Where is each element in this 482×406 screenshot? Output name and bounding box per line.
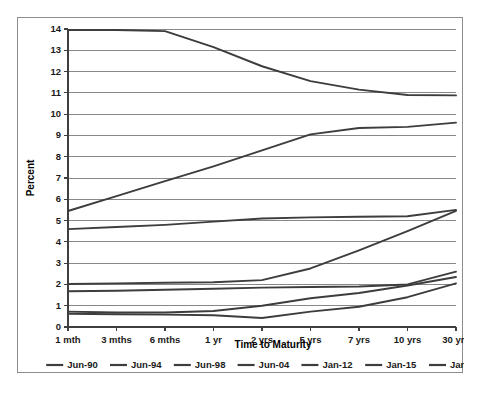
legend-label-jan-12[interactable]: Jan-12 bbox=[322, 359, 352, 370]
chart-legend[interactable]: Jun-90Jun-94Jun-98Jun-04Jan-12Jan-15Jan-… bbox=[46, 359, 464, 370]
y-axis-title: Percent bbox=[25, 159, 36, 196]
legend-label-jun-04[interactable]: Jun-04 bbox=[259, 359, 290, 370]
y-tick-label: 6 bbox=[56, 193, 61, 204]
series-lines[interactable] bbox=[68, 30, 456, 318]
x-tick-label: 30 yrs bbox=[442, 334, 464, 345]
y-tick-label: 9 bbox=[56, 129, 61, 140]
y-tick-label: 4 bbox=[56, 236, 62, 247]
line-chart[interactable]: 01234567891011121314 1 mth3 mths6 mths1 … bbox=[18, 18, 464, 374]
y-tick-label: 1 bbox=[56, 300, 62, 311]
y-tick-label: 0 bbox=[56, 321, 61, 332]
legend-label-jan-15[interactable]: Jan-15 bbox=[386, 359, 417, 370]
y-tick-label: 2 bbox=[56, 278, 61, 289]
series-line-jun-98[interactable] bbox=[68, 210, 456, 229]
y-tick-label: 5 bbox=[56, 215, 62, 226]
x-tick-label: 1 mth bbox=[55, 334, 81, 345]
legend-label-jan-19[interactable]: Jan-19 bbox=[450, 359, 464, 370]
y-tick-label: 10 bbox=[50, 108, 61, 119]
x-tick-label: 3 mths bbox=[101, 334, 132, 345]
chart-figure: 01234567891011121314 1 mth3 mths6 mths1 … bbox=[17, 17, 463, 373]
series-line-jun-04[interactable] bbox=[68, 211, 456, 284]
y-tick-label: 8 bbox=[56, 151, 61, 162]
x-tick-label: 6 mths bbox=[150, 334, 181, 345]
x-tick-label: 10 yrs bbox=[394, 334, 421, 345]
y-tick-label: 14 bbox=[50, 23, 61, 34]
legend-label-jun-98[interactable]: Jun-98 bbox=[195, 359, 226, 370]
y-tick-label: 11 bbox=[51, 87, 62, 98]
y-tick-label: 7 bbox=[56, 172, 61, 183]
y-tick-label: 13 bbox=[50, 44, 61, 55]
series-line-jun-90[interactable] bbox=[68, 30, 456, 95]
legend-label-jun-90[interactable]: Jun-90 bbox=[67, 359, 98, 370]
x-axis-title: Time to Maturity bbox=[234, 339, 311, 350]
legend-label-jun-94[interactable]: Jun-94 bbox=[131, 359, 162, 370]
y-axis-ticks: 01234567891011121314 bbox=[50, 23, 68, 332]
gridlines bbox=[68, 29, 456, 306]
x-tick-label: 7 yrs bbox=[348, 334, 370, 345]
y-tick-label: 12 bbox=[50, 66, 61, 77]
series-line-jan-12[interactable] bbox=[68, 272, 456, 292]
x-tick-label: 1 yr bbox=[205, 334, 222, 345]
y-tick-label: 3 bbox=[56, 257, 61, 268]
plot-wrapper: 01234567891011121314 1 mth3 mths6 mths1 … bbox=[18, 18, 464, 374]
